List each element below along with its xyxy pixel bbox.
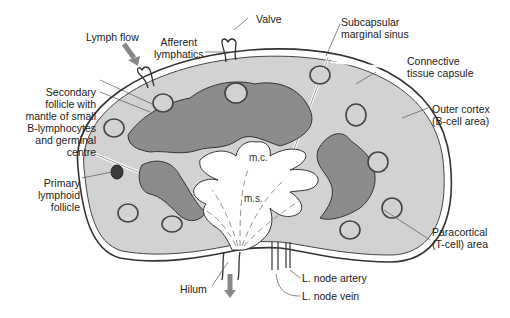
label-line: B-lymphocytes xyxy=(25,122,96,134)
label-line: Secondary xyxy=(25,86,96,98)
label-paracortical-area: Paracortical (T-cell) area xyxy=(432,226,488,250)
label-line: lymphoid xyxy=(38,189,80,201)
label-vein: L. node vein xyxy=(302,290,359,302)
label-line: Subcapsular xyxy=(341,16,409,28)
efferent-flow-arrow-icon xyxy=(224,274,236,298)
primary-lymphoid-follicle xyxy=(111,165,123,179)
label-outer-cortex: Outer cortex (B-cell area) xyxy=(432,103,490,127)
lymph-flow-arrow-icon xyxy=(124,44,140,66)
label-secondary-follicle: Secondary follicle with mantle of small … xyxy=(25,86,96,158)
label-line: Afferent xyxy=(154,36,204,48)
label-primary-follicle: Primary lymphoid follicle xyxy=(38,177,80,213)
label-line: Primary xyxy=(38,177,80,189)
label-lymph-flow: Lymph flow xyxy=(86,31,139,43)
label-line: Paracortical xyxy=(432,226,488,238)
label-line: and germinal xyxy=(25,134,96,146)
label-line: lymphatics xyxy=(154,48,204,60)
label-afferent-lymphatics: Afferent lymphatics xyxy=(154,36,204,60)
label-medullary-sinus: m.s. xyxy=(244,193,263,205)
label-line: mantle of small xyxy=(25,110,96,122)
label-subcapsular-sinus: Subcapsular marginal sinus xyxy=(341,16,409,40)
label-line: (B-cell area) xyxy=(432,115,490,127)
label-hilum: Hilum xyxy=(180,283,207,295)
label-line: centre xyxy=(25,146,96,158)
label-artery: L. node artery xyxy=(302,272,367,284)
label-medullary-cords: m.c. xyxy=(249,152,268,164)
label-valve: Valve xyxy=(256,13,282,25)
label-line: tissue capsule xyxy=(407,67,474,79)
label-line: follicle xyxy=(38,201,80,213)
label-line: Outer cortex xyxy=(432,103,490,115)
label-line: marginal sinus xyxy=(341,28,409,40)
label-line: follicle with xyxy=(25,98,96,110)
label-line: Connective xyxy=(407,55,474,67)
label-connective-capsule: Connective tissue capsule xyxy=(407,55,474,79)
label-line: (T-cell) area xyxy=(432,238,488,250)
